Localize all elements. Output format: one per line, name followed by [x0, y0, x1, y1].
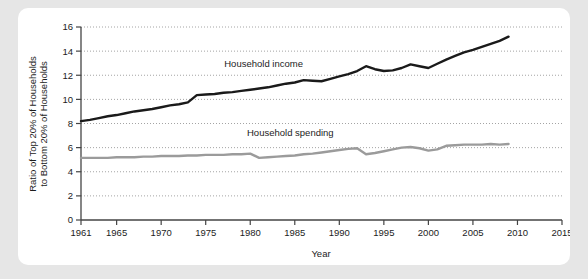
y-axis-title-line1: Ratio of Top 20% of Households	[27, 56, 38, 192]
x-tick-label: 2015	[551, 227, 570, 238]
x-tick-group: 1961196519701975198019851990199520002005…	[70, 220, 570, 238]
x-axis-title: Year	[311, 248, 330, 259]
y-tick-group: 0246810121416	[62, 21, 81, 225]
x-tick-label: 2000	[418, 227, 439, 238]
y-tick-label: 6	[68, 142, 73, 153]
x-tick-label: 1970	[151, 227, 172, 238]
x-tick-label: 2010	[507, 227, 528, 238]
gridlines-group	[81, 27, 562, 196]
y-tick-label: 8	[68, 118, 73, 129]
line-chart: 0246810121416 19611965197019751980198519…	[18, 8, 570, 265]
y-tick-label: 12	[62, 70, 73, 81]
x-tick-label: 1980	[240, 227, 261, 238]
x-tick-label: 1975	[195, 227, 216, 238]
x-tick-label: 1965	[106, 227, 127, 238]
y-tick-label: 4	[68, 166, 73, 177]
figure-root: 0246810121416 19611965197019751980198519…	[0, 0, 588, 279]
y-tick-label: 16	[62, 21, 73, 32]
y-tick-label: 14	[62, 46, 73, 57]
annotation-household-spending: Household spending	[247, 127, 334, 138]
x-tick-label: 1961	[70, 227, 91, 238]
x-tick-label: 2005	[462, 227, 483, 238]
y-tick-label: 10	[62, 94, 73, 105]
x-tick-label: 1985	[284, 227, 305, 238]
x-tick-label: 1990	[329, 227, 350, 238]
x-tick-label: 1995	[373, 227, 394, 238]
series-line-household-spending	[81, 144, 509, 158]
y-tick-label: 0	[68, 214, 73, 225]
chart-card: 0246810121416 19611965197019751980198519…	[18, 8, 570, 265]
y-tick-label: 2	[68, 190, 73, 201]
series-line-household-income	[81, 37, 509, 121]
y-axis-title-line2: to Bottom 20% of Households	[38, 61, 49, 187]
annotation-household-income: Household income	[224, 58, 303, 69]
